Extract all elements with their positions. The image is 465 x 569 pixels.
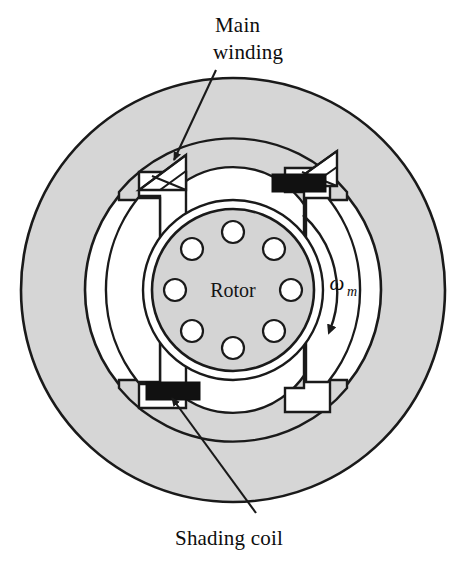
rotor-group: Rotor [143,200,323,380]
shading-coil-lower-left [146,382,200,400]
rotor-bar [263,238,285,260]
motor-cross-section-svg: Rotor ω m [0,0,465,569]
rotor-bar [222,337,244,359]
shading-coil-label: Shading coil [175,526,283,550]
omega-subscript: m [347,284,357,299]
shading-coil-upper-right [272,174,326,192]
rotor-label: Rotor [210,279,256,301]
rotor-bar [263,320,285,342]
rotor-bar [222,221,244,243]
rotor-bar [164,279,186,301]
main-winding-label-line1: Main [215,13,260,37]
rotor-bar [280,279,302,301]
rotor-bar [181,320,203,342]
main-winding-label-line2: winding [213,40,284,64]
omega-symbol: ω [330,271,345,295]
rotor-bar [181,238,203,260]
shaded-pole-motor-figure: Rotor ω m [0,0,465,569]
